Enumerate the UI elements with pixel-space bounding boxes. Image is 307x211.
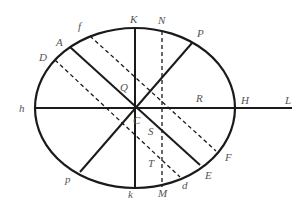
point-label-C: C <box>133 114 141 126</box>
point-label-E: E <box>204 169 212 181</box>
point-label-A: A <box>55 36 63 48</box>
point-label-f: f <box>78 20 83 32</box>
point-label-k: k <box>128 188 134 200</box>
point-label-d: d <box>182 179 188 191</box>
point-label-h: h <box>19 102 25 114</box>
diagram-labels: KNPfADQRhHLCSTpkMdEF <box>19 13 291 200</box>
point-label-K: K <box>129 13 138 25</box>
point-label-H: H <box>240 94 250 106</box>
diagram-shapes <box>35 28 292 188</box>
point-label-M: M <box>157 187 168 199</box>
ellipse-diagram: KNPfADQRhHLCSTpkMdEF <box>0 0 307 211</box>
point-label-F: F <box>224 151 232 163</box>
point-label-Q: Q <box>120 81 128 93</box>
point-label-S: S <box>148 125 154 137</box>
point-label-T: T <box>148 157 155 169</box>
point-label-D: D <box>38 51 47 63</box>
point-label-N: N <box>157 14 166 26</box>
point-label-p: p <box>64 173 71 185</box>
point-label-L: L <box>284 94 291 106</box>
point-label-P: P <box>196 27 204 39</box>
point-label-R: R <box>195 92 203 104</box>
